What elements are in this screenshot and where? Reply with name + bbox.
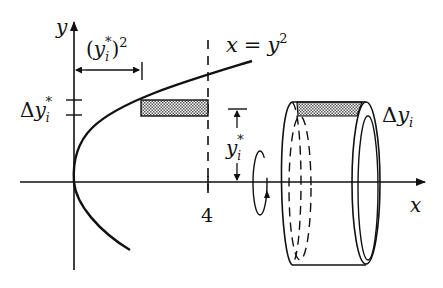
- curve-equation-label: x=y2: [226, 31, 288, 57]
- left-plot: y x 4 Δyi* (yi*)2 x=y2: [20, 15, 425, 270]
- y-star-squared-label: (yi*)2: [86, 34, 128, 64]
- rotation-arrow-icon: [253, 151, 267, 215]
- y-axis-label: y: [55, 15, 68, 39]
- shell-right-outer-ellipse: [352, 102, 380, 264]
- delta-y-i-label: Δyi: [382, 103, 413, 130]
- x-tick-label-4: 4: [201, 204, 213, 226]
- y-star-label: yi*: [225, 132, 244, 163]
- shell-shaded-band: [297, 102, 362, 116]
- delta-y-star-label: Δyi*: [20, 94, 53, 125]
- rotation-arrowhead: [264, 190, 270, 198]
- x-axis-label: x: [410, 193, 421, 217]
- shell-left-outer-arc: [281, 102, 292, 265]
- shell-right-inner-ellipse: [358, 116, 378, 260]
- shell-method-diagram: y x 4 Δyi* (yi*)2 x=y2: [0, 0, 443, 288]
- shaded-strip: [141, 100, 208, 116]
- shell-left-outer-dashed-back: [292, 102, 301, 265]
- cylindrical-shell: Δyi: [253, 102, 413, 265]
